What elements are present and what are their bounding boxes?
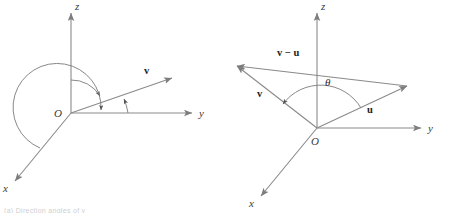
x-axis-label: x [248, 197, 254, 209]
y-axis-label: y [427, 122, 433, 134]
vector-v-minus-u-label: v − u [277, 47, 299, 58]
alpha-arc-from-x-axis [13, 63, 101, 148]
vector-v-label: v [144, 65, 150, 76]
vector-u-label: u [367, 104, 373, 115]
vector-v-line [237, 66, 317, 128]
figure-container: z y x O v (a) Direction angles of v [0, 0, 451, 213]
beta-arc-from-y-axis [124, 99, 128, 113]
origin-label: O [311, 135, 319, 147]
left-diagram-svg: z y x O v [0, 0, 225, 213]
right-diagram-svg: z y x O v − u v u θ [225, 0, 451, 213]
theta-arc [283, 85, 361, 108]
gamma-arc-from-z-axis [71, 80, 100, 96]
theta-label: θ [325, 76, 331, 88]
diagram-panel-right: z y x O v − u v u θ (b) Angle between u … [225, 0, 451, 213]
vector-u-line [317, 86, 407, 128]
z-axis-label: z [320, 0, 326, 12]
y-axis-label: y [198, 107, 204, 119]
vector-v-minus-u-line [237, 66, 407, 86]
origin-label: O [54, 107, 62, 119]
diagram-panel-left: z y x O v (a) Direction angles of v [0, 0, 225, 213]
x-axis-line [261, 128, 317, 196]
z-axis-label: z [74, 0, 80, 12]
figure-caption-left: (a) Direction angles of v [4, 207, 85, 213]
x-axis-label: x [2, 182, 8, 194]
vector-v-label: v [257, 88, 263, 99]
x-axis-line [15, 113, 71, 181]
